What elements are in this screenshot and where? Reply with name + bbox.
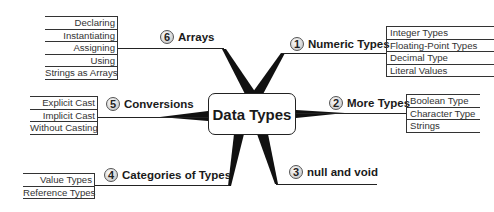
- branch-label: Arrays: [178, 31, 214, 43]
- subtopic-item[interactable]: Decimal Type: [386, 52, 494, 65]
- numeric-types-subtopics: Integer Types Floating-Point Types Decim…: [386, 26, 494, 77]
- branch-categories-of-types[interactable]: 4 Categories of Types: [104, 168, 231, 182]
- subtopic-item[interactable]: Explicit Cast: [30, 96, 98, 110]
- subtopic-item[interactable]: Floating-Point Types: [386, 40, 494, 53]
- subtopic-item[interactable]: Assigning: [45, 42, 118, 55]
- subtopic-item[interactable]: Integer Types: [386, 26, 494, 40]
- subtopic-item[interactable]: Strings as Arrays: [45, 67, 118, 80]
- spoke-numeric-types: [250, 53, 285, 96]
- subtopic-item[interactable]: Value Types: [23, 173, 95, 187]
- branch-conversions[interactable]: 5 Conversions: [106, 97, 194, 111]
- central-topic-label: Data Types: [213, 106, 292, 123]
- branch-null-and-void[interactable]: 3 null and void: [289, 165, 378, 179]
- subtopic-item[interactable]: Strings: [406, 120, 480, 133]
- central-topic[interactable]: Data Types: [208, 93, 296, 135]
- subtopic-item[interactable]: Implicit Cast: [30, 110, 98, 123]
- spoke-null-and-void: [257, 134, 278, 184]
- subtopic-item[interactable]: Character Type: [406, 108, 480, 121]
- categories-subtopics: Value Types Reference Types: [23, 173, 95, 199]
- spoke-arrays: [222, 49, 258, 96]
- subtopic-item[interactable]: Using: [45, 55, 118, 68]
- branch-more-types[interactable]: 2 More Types: [329, 96, 410, 110]
- subtopic-item[interactable]: Without Casting: [30, 122, 98, 135]
- subtopic-item[interactable]: Reference Types: [23, 187, 95, 200]
- branch-numeric-types[interactable]: 1 Numeric Types: [290, 37, 390, 51]
- number-1-icon: 1: [290, 37, 304, 51]
- number-3-icon: 3: [289, 165, 303, 179]
- more-types-subtopics: Boolean Type Character Type Strings: [406, 94, 480, 133]
- branch-arrays[interactable]: 6 Arrays: [160, 30, 214, 44]
- subtopic-item[interactable]: Declaring: [45, 16, 118, 30]
- branch-label: Categories of Types: [122, 169, 231, 181]
- number-5-icon: 5: [106, 97, 120, 111]
- conversions-subtopics: Explicit Cast Implicit Cast Without Cast…: [30, 96, 98, 135]
- subtopic-item[interactable]: Literal Values: [386, 65, 494, 78]
- branch-label: Numeric Types: [308, 38, 390, 50]
- arrays-subtopics: Declaring Instantiating Assigning Using …: [45, 16, 118, 80]
- number-6-icon: 6: [160, 30, 174, 44]
- branch-label: More Types: [347, 97, 410, 109]
- number-2-icon: 2: [329, 96, 343, 110]
- subtopic-item[interactable]: Boolean Type: [406, 94, 480, 108]
- number-4-icon: 4: [104, 168, 118, 182]
- branch-label: null and void: [307, 166, 378, 178]
- subtopic-item[interactable]: Instantiating: [45, 30, 118, 43]
- spoke-conversions: [160, 111, 208, 121]
- branch-label: Conversions: [124, 98, 194, 110]
